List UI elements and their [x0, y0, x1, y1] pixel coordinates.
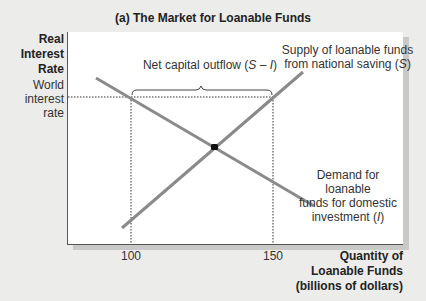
x-axis-label: Quantity of Loanable Funds (billions of …	[296, 249, 403, 294]
nco-brace	[132, 86, 272, 95]
nco-minus: –	[256, 58, 269, 72]
d3-text: investment (	[312, 210, 377, 224]
x-label-line-1: Quantity of	[296, 249, 403, 264]
x-label-line-3: (billions of dollars)	[296, 279, 403, 294]
nco-text: Net capital outflow (	[143, 58, 248, 72]
supply-label: Supply of loanable funds from national s…	[275, 43, 420, 71]
equilibrium-point	[211, 144, 218, 150]
supply-label-line-2: from national saving (S)	[275, 57, 420, 71]
demand-label-line-2: funds for domestic	[293, 196, 403, 210]
s2-s: S	[399, 57, 407, 71]
supply-label-line-1: Supply of loanable funds	[275, 43, 420, 57]
d3-close: )	[380, 210, 384, 224]
demand-label: Demand for loanable funds for domestic i…	[293, 168, 403, 224]
demand-curve	[96, 78, 314, 206]
s2-text: from national saving (	[284, 57, 399, 71]
x-tick-150: 150	[263, 249, 283, 263]
demand-label-line-1: Demand for loanable	[293, 168, 403, 196]
s2-close: )	[407, 57, 411, 71]
x-label-line-2: Loanable Funds	[296, 264, 403, 279]
x-tick-100: 100	[121, 249, 141, 263]
nco-label: Net capital outflow (S – I)	[140, 58, 280, 72]
demand-label-line-3: investment (I)	[293, 210, 403, 224]
